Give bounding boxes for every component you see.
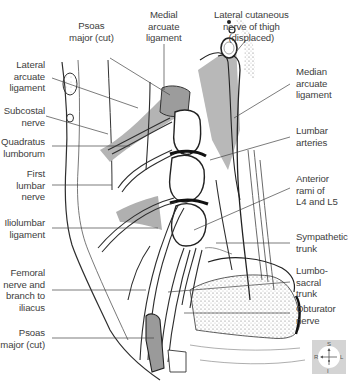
label-lateral-arcuate-ligament: Lateral arcuate ligament [10, 59, 45, 94]
compass-superior: S [327, 341, 331, 347]
label-iliolumbar-ligament: Iliolumbar ligament [4, 217, 45, 240]
label-psoas-major-cut-bottom: Psoas major (cut) [0, 327, 45, 350]
label-lumbosacral-trunk: Lumbo- sacral trunk [296, 265, 328, 300]
compass-inferior: I [327, 368, 329, 374]
label-medial-arcuate-ligament: Medial arcuate ligament [146, 9, 181, 44]
compass-left: L [340, 354, 343, 360]
label-subcostal-nerve: Subcostal nerve [4, 105, 45, 128]
compass-right: R [314, 354, 318, 360]
label-psoas-major-cut-top: Psoas major (cut) [69, 20, 114, 43]
label-anterior-rami: Anterior rami of L4 and L5 [296, 173, 338, 208]
label-first-lumbar-nerve: First lumbar nerve [16, 168, 45, 203]
label-sympathetic-trunk: Sympathetic trunk [296, 231, 348, 254]
label-femoral-nerve: Femoral nerve and branch to iliacus [3, 267, 45, 313]
orientation-compass: S I R L [312, 340, 346, 374]
label-lumbar-arteries: Lumbar arteries [296, 125, 328, 148]
label-lateral-cutaneous-nerve: Lateral cutaneous nerve of thigh (displa… [214, 9, 289, 44]
label-median-arcuate-ligament: Median arcuate ligament [296, 66, 331, 101]
label-quadratus-lumborum: Quadratus lumborum [1, 136, 45, 159]
label-obturator-nerve: Obturator nerve [296, 303, 336, 326]
